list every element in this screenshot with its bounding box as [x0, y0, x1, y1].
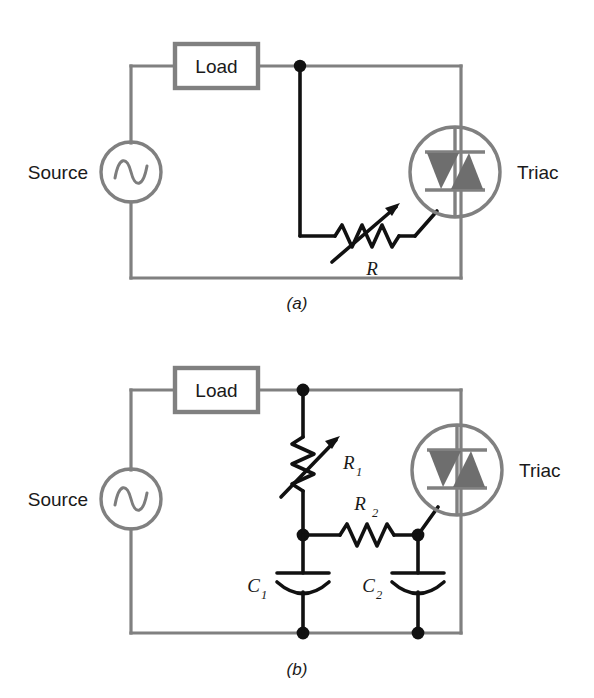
variable-arrow-shaft-R1 — [281, 440, 336, 497]
triac-label: Triac — [519, 460, 561, 481]
capacitor-C1 — [277, 535, 329, 633]
caption-b: (b) — [287, 660, 308, 679]
figure-root: Load R — [0, 0, 594, 698]
resistor-R1-sub: 1 — [356, 465, 362, 479]
capacitor-C1-sub: 1 — [261, 588, 267, 602]
load-box-b: Load — [175, 368, 258, 412]
load-box-a: Load — [175, 44, 258, 88]
resistor-R2 — [303, 524, 418, 546]
capacitor-C2-sub: 2 — [376, 588, 382, 602]
triac-symbol-a — [410, 127, 500, 217]
wire-b-gate-lead — [418, 507, 438, 535]
triac-label: Triac — [517, 162, 559, 183]
source-label: Source — [28, 162, 88, 183]
wire-a-gate-lead — [415, 211, 437, 236]
capacitor-C2 — [392, 535, 444, 633]
gate-branch-a — [300, 66, 437, 262]
source-label: Source — [28, 489, 88, 510]
circuit-diagram-a: Load R — [0, 0, 594, 330]
resistor-R2-sub: 2 — [372, 506, 378, 520]
triac-symbol-b — [412, 425, 502, 515]
circuit-diagram-b: Load R 1 R 2 — [0, 330, 594, 698]
capacitor-C1-label: C — [247, 575, 260, 596]
resistor-R1-label: R — [342, 452, 355, 473]
ac-source-symbol-b — [101, 469, 161, 529]
capacitor-C2-label: C — [362, 575, 375, 596]
sine-wave-icon — [115, 161, 147, 184]
ac-source-symbol-a — [101, 142, 161, 202]
resistor-R-label: R — [365, 258, 378, 279]
variable-resistor-R-zigzag — [335, 225, 399, 247]
resistor-R2-label: R — [353, 493, 366, 514]
sine-wave-icon — [115, 488, 147, 511]
caption-a: (a) — [287, 294, 308, 313]
variable-resistor-R1 — [281, 390, 340, 535]
load-label: Load — [195, 56, 237, 77]
circuit-b-wiring — [131, 390, 461, 633]
resistor-R2-zigzag — [340, 524, 394, 546]
load-label: Load — [195, 380, 237, 401]
